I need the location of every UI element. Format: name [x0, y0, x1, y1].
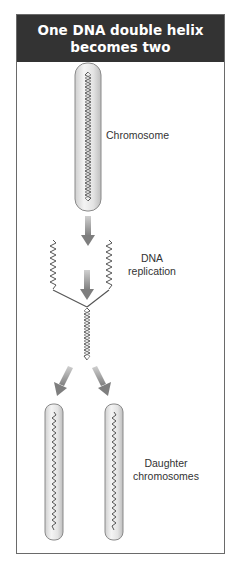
daughter-chromosomes-label: Daughter chromosomes: [130, 457, 202, 483]
daughter-chromosome-left: [45, 404, 63, 540]
replication-label-line-1: DNA: [120, 252, 184, 265]
daughter-chromosome-right: [105, 404, 123, 540]
down-arrow-icon: [80, 270, 94, 300]
parent-chromosome: [75, 63, 101, 211]
daughter-label-line-2: chromosomes: [130, 470, 202, 483]
split-arrow-left-icon: [54, 366, 73, 396]
replication-fork: [50, 240, 112, 360]
down-arrow-icon: [81, 216, 95, 246]
chromosome-label-text: Chromosome: [106, 129, 169, 141]
chromosome-label: Chromosome: [106, 129, 169, 142]
replication-label-line-2: replication: [120, 265, 184, 278]
daughter-label-line-1: Daughter: [130, 457, 202, 470]
dna-replication-label: DNA replication: [120, 252, 184, 278]
split-arrow-right-icon: [92, 366, 111, 396]
